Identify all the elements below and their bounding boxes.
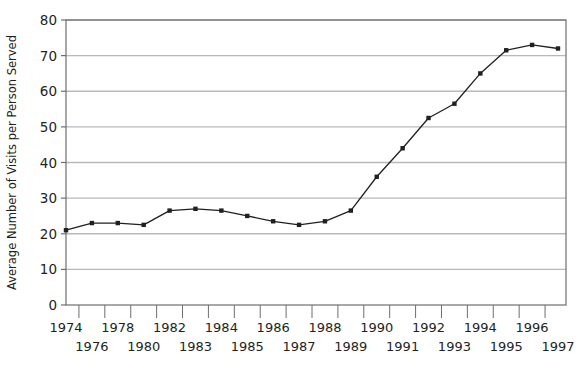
xtick-label-1989: 1989 [334,339,367,354]
data-point-1977 [141,223,145,227]
ytick-label-20: 20 [40,226,57,242]
xtick-label-1988: 1988 [308,320,341,335]
xtick-label-1990: 1990 [360,320,393,335]
xtick-label-1980: 1980 [127,339,160,354]
data-point-1987 [400,146,404,150]
ytick-label-50: 50 [40,119,57,135]
xtick-label-1987: 1987 [283,339,316,354]
xtick-label-1994: 1994 [464,320,497,335]
ytick-label-0: 0 [48,297,57,313]
ytick-label-80: 80 [40,12,57,28]
data-point-1988 [426,116,430,120]
xtick-label-1982: 1982 [153,320,186,335]
data-point-1978 [167,208,171,212]
xtick-label-1995: 1995 [490,339,523,354]
data-point-1993 [556,46,560,50]
ytick-label-60: 60 [40,83,57,99]
data-series-line [66,45,558,230]
chart-container: 01020304050607080Average Number of Visit… [0,0,588,371]
data-point-1982 [271,219,275,223]
xtick-label-1985: 1985 [231,339,264,354]
ytick-label-30: 30 [40,190,57,206]
data-point-1992 [530,43,534,47]
data-point-1986 [375,175,379,179]
data-point-1991 [504,48,508,52]
xtick-label-1986: 1986 [257,320,290,335]
ytick-label-40: 40 [40,155,57,171]
data-point-1979 [193,207,197,211]
data-point-1989 [452,102,456,106]
xtick-label-1974: 1974 [49,320,82,335]
data-point-1975 [90,221,94,225]
data-point-1976 [116,221,120,225]
data-point-1974 [64,228,68,232]
xtick-label-1978: 1978 [101,320,134,335]
xtick-label-1997: 1997 [541,339,574,354]
ytick-label-70: 70 [40,48,57,64]
xtick-label-1992: 1992 [412,320,445,335]
data-point-1984 [323,219,327,223]
y-axis-title: Average Number of Visits per Person Serv… [5,35,19,290]
data-point-1990 [478,71,482,75]
xtick-label-1996: 1996 [516,320,549,335]
data-point-1983 [297,223,301,227]
xtick-label-1991: 1991 [386,339,419,354]
ytick-label-10: 10 [40,261,57,277]
xtick-label-1983: 1983 [179,339,212,354]
xtick-label-1984: 1984 [205,320,238,335]
data-point-1980 [219,208,223,212]
line-chart: 01020304050607080Average Number of Visit… [0,0,588,371]
xtick-label-1993: 1993 [438,339,471,354]
data-point-1985 [349,208,353,212]
xtick-label-1976: 1976 [75,339,108,354]
data-point-1981 [245,214,249,218]
